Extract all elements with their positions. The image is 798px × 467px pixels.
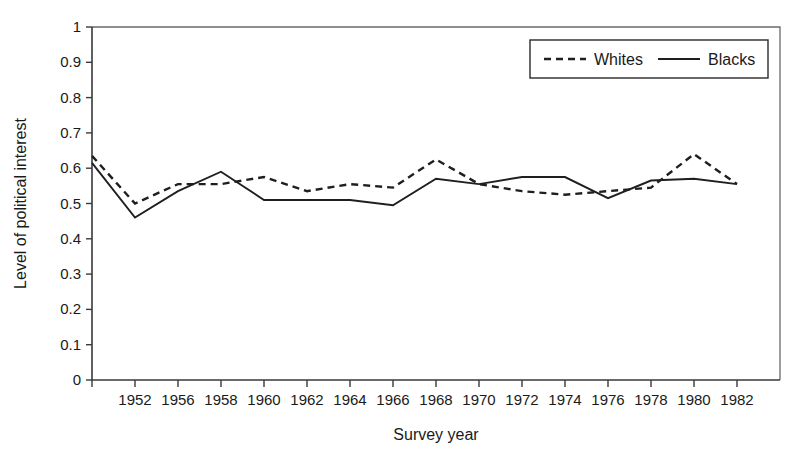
x-axis-tick-label: 1956 — [161, 391, 194, 408]
chart-figure: 00.10.20.30.40.50.60.70.80.9119521956195… — [0, 0, 798, 467]
x-axis-tick-label: 1968 — [419, 391, 452, 408]
y-axis-tick-label: 0.3 — [60, 265, 81, 282]
y-axis-tick-label: 0.5 — [60, 195, 81, 212]
y-axis-tick-label: 0.7 — [60, 124, 81, 141]
series-line-blacks — [92, 163, 737, 218]
x-axis-tick-label: 1976 — [591, 391, 624, 408]
x-axis-tick-label: 1978 — [634, 391, 667, 408]
plot-axes — [92, 27, 780, 380]
x-axis-tick-label: 1962 — [290, 391, 323, 408]
x-axis-tick-label: 1952 — [118, 391, 151, 408]
x-axis-tick-label: 1964 — [333, 391, 366, 408]
y-axis-tick-label: 0.2 — [60, 300, 81, 317]
x-axis-title: Survey year — [393, 426, 479, 443]
line-chart-canvas: 00.10.20.30.40.50.60.70.80.9119521956195… — [0, 0, 798, 467]
x-axis-tick-label: 1966 — [376, 391, 409, 408]
y-axis-tick-label: 0.8 — [60, 89, 81, 106]
x-axis-tick-label: 1958 — [204, 391, 237, 408]
legend-label-whites: Whites — [594, 51, 643, 68]
y-axis-tick-label: 0.4 — [60, 230, 81, 247]
y-axis-tick-label: 1 — [73, 18, 81, 35]
series-line-whites — [92, 154, 737, 203]
x-axis-tick-label: 1970 — [462, 391, 495, 408]
y-axis-tick-label: 0 — [73, 371, 81, 388]
plot-frame — [92, 27, 780, 380]
x-axis-tick-label: 1982 — [720, 391, 753, 408]
y-axis-title: Level of political interest — [12, 118, 29, 289]
x-axis-tick-label: 1960 — [247, 391, 280, 408]
y-axis-tick-label: 0.6 — [60, 159, 81, 176]
y-axis-tick-label: 0.1 — [60, 336, 81, 353]
x-axis-tick-label: 1974 — [548, 391, 581, 408]
y-axis-tick-label: 0.9 — [60, 53, 81, 70]
x-axis-tick-label: 1972 — [505, 391, 538, 408]
x-axis-tick-label: 1980 — [677, 391, 710, 408]
legend-label-blacks: Blacks — [708, 51, 755, 68]
